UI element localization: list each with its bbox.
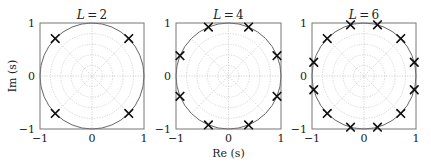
- y-tick-label: 0: [300, 70, 307, 83]
- pole-marker-x-icon: [125, 110, 133, 118]
- pole-marker-x-icon: [51, 110, 59, 118]
- panel-title: L = 4: [212, 8, 244, 22]
- y-tick-label: 1: [300, 17, 307, 30]
- pole-marker-x-icon: [323, 35, 331, 43]
- title-value: 4: [236, 8, 244, 22]
- x-tick-label: 0: [89, 132, 96, 145]
- pole-marker-x-icon: [245, 121, 253, 129]
- pole-marker-x-icon: [374, 21, 382, 29]
- pole-marker-x-icon: [176, 92, 184, 100]
- title-variable: L: [212, 8, 221, 22]
- pole-zero-figure: L = 210−1−101Im (s)L = 410−1−101Re (s)L …: [0, 0, 431, 168]
- y-axis-label: Im (s): [6, 60, 19, 93]
- y-tick-label: 0: [28, 70, 35, 83]
- x-tick-label: 0: [361, 132, 368, 145]
- panel-title: L = 2: [76, 8, 107, 22]
- title-variable: L: [348, 8, 357, 22]
- x-tick-label: −1: [168, 132, 184, 145]
- pole-marker-x-icon: [347, 21, 355, 29]
- polar-grid: [176, 23, 281, 129]
- title-equals: =: [85, 8, 100, 22]
- x-tick-label: 1: [278, 132, 285, 145]
- pole-marker-x-icon: [51, 35, 59, 43]
- chart-panel-3: L = 610−1−101: [291, 8, 420, 145]
- pole-marker-x-icon: [410, 86, 418, 94]
- x-tick-label: −1: [32, 132, 48, 145]
- pole-marker-x-icon: [176, 52, 184, 60]
- title-equals: =: [221, 8, 236, 22]
- y-tick-label: 1: [164, 17, 171, 30]
- title-equals: =: [357, 8, 372, 22]
- x-tick-label: −1: [304, 132, 320, 145]
- title-value: 2: [100, 8, 108, 22]
- pole-marker-x-icon: [205, 121, 213, 129]
- pole-marker-x-icon: [397, 35, 405, 43]
- x-tick-label: 0: [225, 132, 232, 145]
- pole-marker-x-icon: [410, 58, 418, 66]
- panel-title: L = 6: [348, 8, 379, 22]
- pole-marker-x-icon: [273, 92, 281, 100]
- pole-marker-x-icon: [310, 58, 318, 66]
- pole-marker-x-icon: [310, 86, 318, 94]
- x-tick-label: 1: [413, 132, 420, 145]
- chart-panel-1: L = 210−1−101Im (s): [6, 8, 148, 145]
- pole-marker-x-icon: [273, 52, 281, 60]
- pole-marker-x-icon: [205, 23, 213, 31]
- pole-marker-x-icon: [347, 123, 355, 131]
- title-value: 6: [372, 8, 380, 22]
- x-tick-label: 1: [141, 132, 148, 145]
- pole-marker-x-icon: [323, 110, 331, 118]
- pole-marker-x-icon: [397, 110, 405, 118]
- pole-marker-x-icon: [125, 35, 133, 43]
- x-axis-label: Re (s): [212, 147, 245, 160]
- pole-marker-x-icon: [374, 123, 382, 131]
- y-tick-label: 1: [28, 17, 35, 30]
- title-variable: L: [76, 8, 85, 22]
- chart-panel-2: L = 410−1−101Re (s): [155, 8, 285, 160]
- y-tick-label: 0: [164, 70, 171, 83]
- pole-marker-x-icon: [245, 23, 253, 31]
